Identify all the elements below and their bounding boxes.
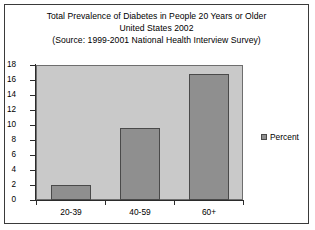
y-axis-tick-label: 10 (0, 121, 16, 129)
y-axis-tick-label: 8 (0, 136, 16, 144)
y-axis-tick (30, 155, 35, 156)
chart-title-block: Total Prevalence of Diabetes in People 2… (5, 10, 308, 47)
y-axis-tick (30, 170, 35, 171)
bars-layer (36, 65, 243, 200)
y-axis-tick (30, 185, 35, 186)
chart-title-line2: United States 2002 (5, 22, 308, 34)
y-axis-tick-label: 6 (0, 151, 16, 159)
y-axis-tick (30, 140, 35, 141)
y-axis-tick (30, 125, 35, 126)
y-axis-tick (30, 200, 35, 201)
x-axis-tick (36, 201, 37, 205)
chart-legend: Percent (261, 132, 299, 142)
bar-20-39 (51, 185, 91, 200)
y-axis-tick (30, 80, 35, 81)
bar-40-59 (120, 128, 160, 200)
y-axis-tick (30, 65, 35, 66)
legend-swatch-percent-icon (261, 134, 267, 140)
x-axis-label-60+: 60+ (179, 207, 239, 217)
bar-60+ (189, 74, 229, 200)
x-axis-line (35, 200, 244, 201)
chart-source-line: (Source: 1999-2001 National Health Inter… (5, 34, 308, 46)
y-axis-tick-label: 18 (0, 61, 16, 69)
x-axis-tick (243, 201, 244, 205)
y-axis-tick-label: 4 (0, 166, 16, 174)
chart-frame: Total Prevalence of Diabetes in People 2… (4, 4, 309, 224)
chart-title-line1: Total Prevalence of Diabetes in People 2… (5, 10, 308, 22)
x-axis-tick (174, 201, 175, 205)
y-axis-tick (30, 110, 35, 111)
y-axis-tick-label: 0 (0, 196, 16, 204)
y-axis-tick (30, 95, 35, 96)
legend-label-percent: Percent (270, 132, 299, 142)
x-axis-label-20-39: 20-39 (41, 207, 101, 217)
y-axis-tick-label: 14 (0, 91, 16, 99)
x-axis-tick (105, 201, 106, 205)
x-axis-label-40-59: 40-59 (110, 207, 170, 217)
y-axis-tick-label: 16 (0, 76, 16, 84)
y-axis-tick-label: 12 (0, 106, 16, 114)
y-axis-tick-label: 2 (0, 181, 16, 189)
